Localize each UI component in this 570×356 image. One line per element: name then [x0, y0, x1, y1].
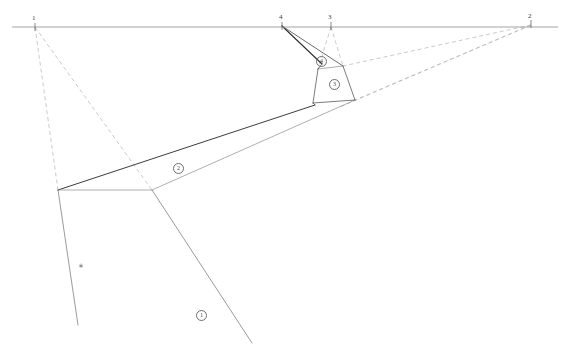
region-label-2: 2: [173, 163, 184, 174]
trapezoid-left-edge: [313, 69, 318, 103]
perspective-drawing-svg: [0, 0, 570, 356]
vp3-to-trapezoid-right: [331, 27, 343, 66]
vanishing-point-label-3: 3: [328, 14, 332, 21]
region-label-1: 1: [196, 310, 207, 321]
vanishing-point-label-1: 1: [32, 15, 36, 22]
region-number-glyph: 2: [173, 163, 184, 174]
apex-right-ray: [282, 26, 343, 66]
vanishing-point-ticks: [35, 20, 531, 31]
vanishing-point-label-2: 2: [528, 13, 532, 20]
solid-edge-lines: [58, 26, 355, 343]
region-label-4: 4: [316, 56, 327, 67]
region-number-glyph: 1: [196, 310, 207, 321]
dashed-construction-lines: [35, 25, 531, 190]
region-number-glyph: 3: [329, 79, 340, 90]
band-lower-edge: [152, 100, 355, 190]
ground-left-leg: [58, 190, 78, 325]
trapezoid-right-edge: [343, 66, 355, 100]
vp1-to-band-mid: [35, 27, 152, 190]
perspective-drawing-canvas: 14321234∗: [0, 0, 570, 356]
region-number-glyph: 4: [316, 56, 327, 67]
vanishing-point-label-4: 4: [279, 14, 283, 21]
point-mark-mark-a: ∗: [78, 263, 84, 270]
vp2-lower-ray: [340, 25, 531, 107]
vp1-to-band-left: [35, 27, 58, 190]
vp2-to-trapezoid-right-top: [343, 25, 531, 66]
region-label-3: 3: [329, 79, 340, 90]
band-upper-edge: [58, 105, 315, 190]
